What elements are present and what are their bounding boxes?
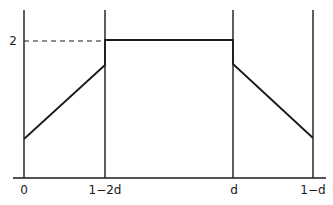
y-tick-label-2: 2 — [9, 34, 17, 48]
piecewise-function-diagram: 2 0 1−2d d 1−d — [0, 0, 333, 205]
x-tick-label-0: 0 — [20, 183, 28, 197]
x-tick-label-1-2d: 1−2d — [89, 183, 122, 197]
function-curve — [24, 40, 313, 139]
x-tick-label-1-d: 1−d — [300, 183, 325, 197]
x-tick-label-d: d — [230, 183, 238, 197]
